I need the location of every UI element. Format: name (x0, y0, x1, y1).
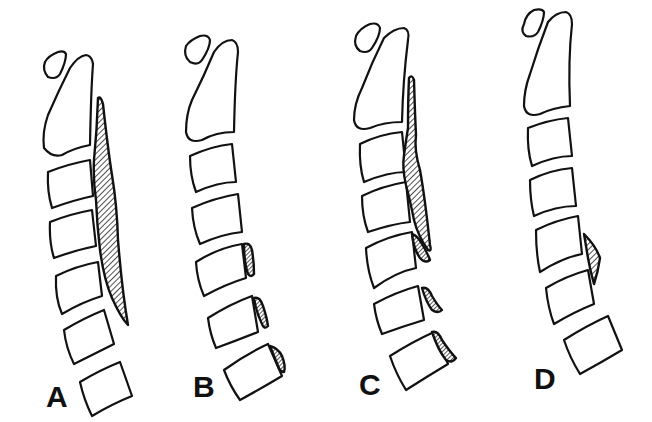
spine-diagram (0, 0, 652, 422)
atlas-arch (185, 36, 210, 64)
c5-vertebra (196, 244, 246, 296)
panel-label-d: D (534, 364, 556, 394)
panel-label-a: A (46, 382, 68, 412)
c7-vertebra (80, 362, 132, 416)
c6-vertebra (374, 286, 424, 334)
c5-vertebra (366, 232, 416, 288)
c4-vertebra (530, 168, 576, 216)
atlas-arch (522, 9, 544, 36)
c5-vertebra (536, 216, 582, 272)
c6-vertebra (546, 270, 594, 324)
c6-vertebra (208, 296, 258, 348)
panel-d (522, 9, 622, 374)
c7-vertebra (564, 316, 622, 374)
atlas-arch (44, 51, 66, 78)
c3-vertebra (190, 144, 236, 192)
panel-label-c: C (359, 370, 381, 400)
c5-vertebra (56, 262, 102, 314)
c3-vertebra (48, 160, 93, 208)
ligament-ossification-c (403, 76, 430, 250)
atlas-arch (355, 24, 380, 53)
osteophyte-c2 (422, 288, 442, 312)
c4-vertebra (50, 210, 96, 258)
c3-vertebra (528, 118, 572, 166)
c6-vertebra (64, 310, 114, 364)
c4-vertebra (192, 194, 242, 244)
panel-a (44, 51, 133, 416)
panel-b (185, 36, 285, 401)
c4-vertebra (362, 182, 410, 232)
panel-label-b: B (193, 372, 215, 402)
c3-vertebra (360, 132, 406, 182)
panel-c (354, 24, 456, 391)
